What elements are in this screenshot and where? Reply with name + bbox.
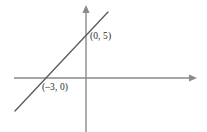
y-axis-arrowhead-icon — [82, 5, 89, 13]
y-axis — [82, 5, 89, 132]
coordinate-plane-figure: (0, 5) (–3, 0) — [0, 0, 207, 132]
point-label-y-intercept: (0, 5) — [90, 31, 111, 42]
point-label-x-intercept: (–3, 0) — [42, 82, 68, 93]
x-axis — [14, 74, 197, 81]
graph-canvas — [0, 0, 207, 132]
plotted-line — [15, 12, 108, 111]
x-axis-arrowhead-icon — [189, 74, 197, 81]
